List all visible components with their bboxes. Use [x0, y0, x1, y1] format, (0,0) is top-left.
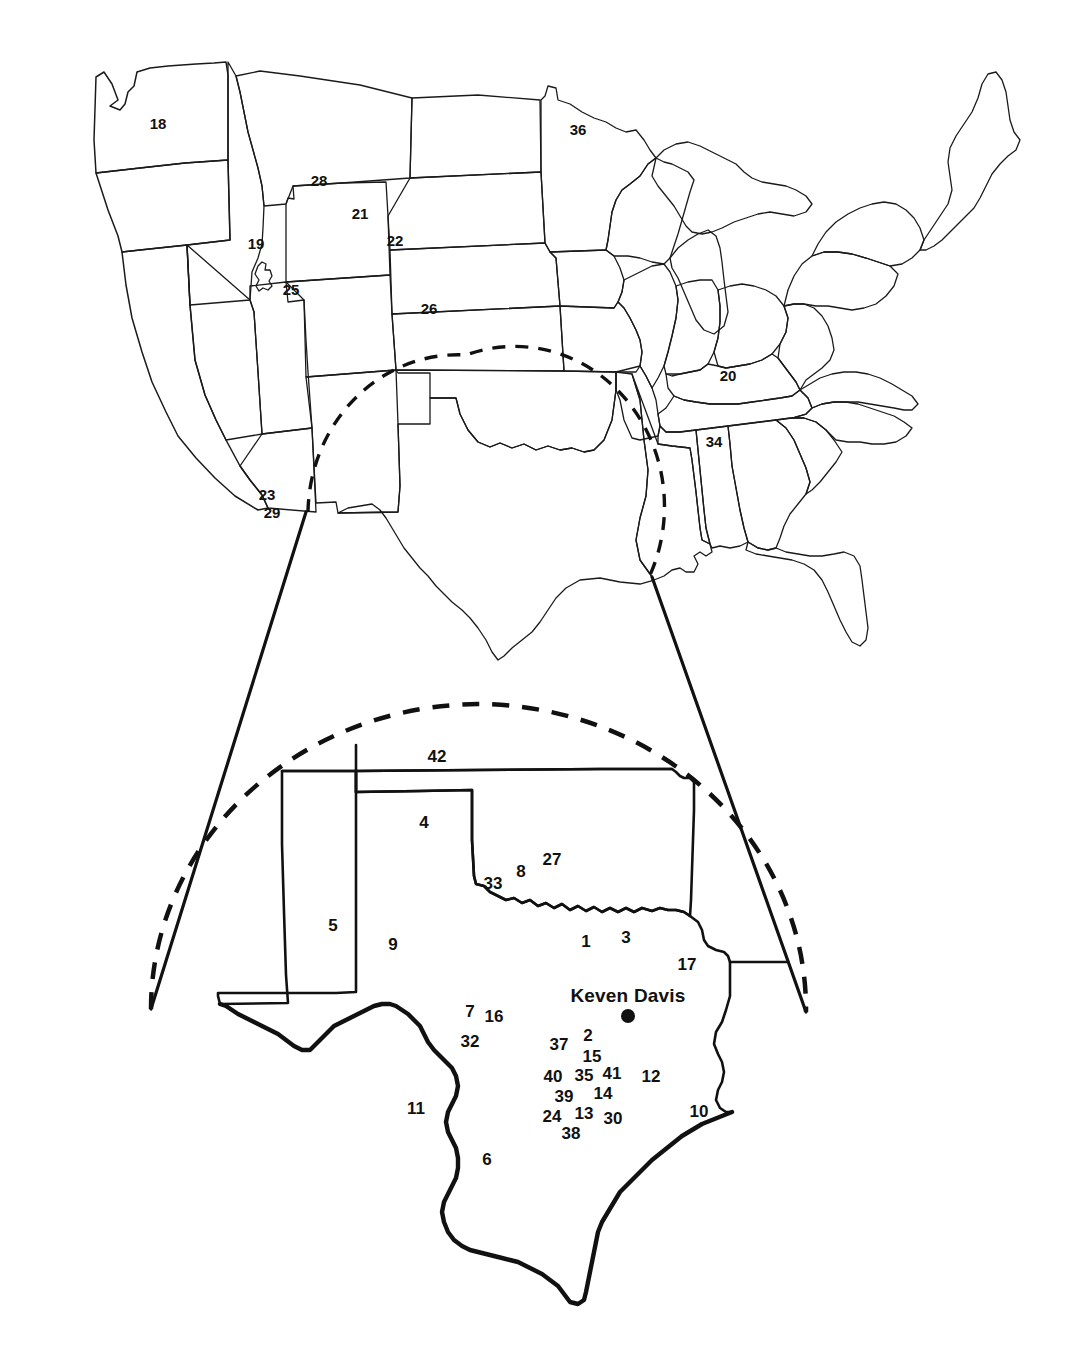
arkansas-outline: [616, 366, 660, 440]
utah-outline: [250, 282, 312, 434]
site-label-1: 1: [581, 933, 590, 950]
north-dakota-outline: [410, 95, 541, 178]
site-label-14: 14: [594, 1085, 613, 1102]
inset-new-mexico-outline: [218, 771, 356, 1004]
minnesota-outline: [541, 86, 656, 252]
site-label-5: 5: [328, 917, 337, 934]
iowa-outline: [550, 250, 624, 308]
map-svg: [0, 0, 1077, 1356]
map-figure: 182836211922252620342329 424278335913177…: [0, 0, 1077, 1356]
upper-peninsula-outline: [652, 142, 812, 234]
kansas-outline: [392, 306, 564, 371]
main-us-map: [94, 62, 1020, 660]
wyoming-outline: [286, 182, 390, 282]
florida-outline: [746, 542, 868, 646]
site-label-8: 8: [516, 863, 525, 880]
site-name-label: Keven Davis: [570, 985, 685, 1007]
nevada-outline: [187, 245, 262, 440]
site-label-13: 13: [575, 1105, 594, 1122]
site-label-23: 23: [259, 487, 276, 502]
site-label-2: 2: [583, 1027, 592, 1044]
inset-oklahoma-outline: [356, 769, 694, 916]
site-label-10: 10: [690, 1103, 709, 1120]
oklahoma-outline: [396, 370, 616, 452]
site-label-39: 39: [555, 1088, 574, 1105]
site-label-3: 3: [621, 929, 630, 946]
site-label-21: 21: [352, 206, 369, 221]
site-label-19: 19: [248, 236, 265, 251]
ohio-outline: [714, 284, 788, 368]
new-england-outline: [920, 72, 1020, 250]
site-label-29: 29: [264, 505, 281, 520]
site-label-24: 24: [543, 1108, 562, 1125]
colorado-outline: [286, 275, 396, 377]
texas-outline: [338, 372, 654, 660]
pennsylvania-outline: [784, 252, 898, 310]
site-label-9: 9: [388, 936, 397, 953]
site-label-42: 42: [428, 748, 447, 765]
site-label-35: 35: [575, 1067, 594, 1084]
oregon-outline: [96, 160, 230, 252]
site-label-32: 32: [461, 1033, 480, 1050]
site-label-6: 6: [482, 1151, 491, 1168]
site-label-28: 28: [311, 173, 328, 188]
site-label-30: 30: [604, 1110, 623, 1127]
inset-texas-panhandle-outline: [356, 790, 690, 916]
idaho-outline: [187, 62, 264, 305]
south-dakota-outline: [388, 172, 545, 250]
south-carolina-outline: [776, 418, 842, 494]
inset-map: [151, 704, 806, 1304]
site-label-25: 25: [283, 282, 300, 297]
site-label-4: 4: [419, 814, 428, 831]
site-label-7: 7: [465, 1003, 474, 1020]
site-marker-dot: [621, 1009, 635, 1023]
site-label-33: 33: [484, 875, 503, 892]
site-label-36: 36: [570, 122, 587, 137]
site-label-17: 17: [678, 956, 697, 973]
small-lake-feature: [255, 262, 272, 291]
site-label-15: 15: [583, 1048, 602, 1065]
inset-texas-east-border: [714, 962, 732, 1112]
site-label-11: 11: [407, 1100, 425, 1117]
michigan-outline: [670, 230, 728, 334]
arizona-outline: [240, 428, 316, 512]
site-label-34: 34: [706, 434, 723, 449]
site-label-41: 41: [603, 1065, 622, 1082]
california-outline: [122, 245, 268, 510]
indiana-outline: [664, 280, 720, 376]
site-label-38: 38: [562, 1125, 581, 1142]
site-label-26: 26: [421, 301, 438, 316]
leader-line-left: [151, 512, 306, 1009]
callout-circle-main: [308, 346, 664, 575]
missouri-outline: [560, 302, 642, 372]
callout-circle-inset: [151, 704, 806, 1012]
site-label-37: 37: [550, 1036, 569, 1053]
site-label-16: 16: [485, 1008, 504, 1025]
west-virginia-outline: [778, 304, 834, 390]
louisiana-outline: [632, 374, 712, 580]
site-label-12: 12: [642, 1068, 661, 1085]
site-label-22: 22: [387, 233, 404, 248]
site-label-20: 20: [720, 368, 737, 383]
mississippi-outline: [658, 426, 710, 544]
georgia-outline: [728, 420, 810, 550]
nebraska-outline: [390, 243, 560, 314]
site-label-18: 18: [150, 116, 167, 131]
new-mexico-outline: [306, 370, 400, 513]
wisconsin-outline: [606, 158, 694, 264]
site-label-27: 27: [543, 851, 562, 868]
leader-line-right: [652, 577, 806, 1012]
new-york-outline: [812, 202, 924, 266]
site-label-40: 40: [544, 1068, 563, 1085]
